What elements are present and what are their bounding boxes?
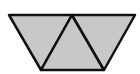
trapezoid-diagram — [0, 0, 140, 74]
